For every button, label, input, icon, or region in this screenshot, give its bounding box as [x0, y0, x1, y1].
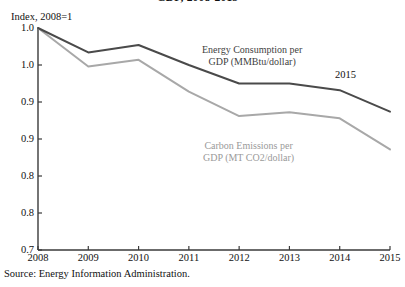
- series-label-energy-line2: GDP (MMBtu/dollar): [202, 56, 302, 68]
- x-axis-tick-label: 2008: [18, 252, 58, 264]
- source-note: Source: Energy Information Administratio…: [4, 267, 190, 280]
- series-label-carbon-line1: Carbon Emissions per: [203, 140, 294, 152]
- y-axis-tick-label: 1.0: [4, 60, 34, 70]
- x-axis-tick-label: 2009: [68, 252, 108, 264]
- y-axis-tick-labels: 1.01.00.90.90.80.80.7: [0, 28, 34, 250]
- y-axis-tick-label: 1.0: [4, 23, 34, 33]
- y-axis-tick-label: 0.9: [4, 134, 34, 144]
- x-axis-tick-label: 2013: [269, 252, 309, 264]
- series-label-carbon-emissions: Carbon Emissions per GDP (MT CO2/dollar): [203, 140, 294, 163]
- y-axis-tick-label: 0.8: [4, 208, 34, 218]
- chart-title: GDP, 2008-2015: [0, 0, 395, 3]
- x-axis-tick-label: 2010: [119, 252, 159, 264]
- x-axis-tick-label: 2015: [370, 252, 405, 264]
- x-axis-tick-label: 2012: [219, 252, 259, 264]
- y-axis-tick-label: 0.8: [4, 171, 34, 181]
- series-label-energy-consumption: Energy Consumption per GDP (MMBtu/dollar…: [202, 44, 302, 67]
- x-axis-tick-label: 2014: [320, 252, 360, 264]
- series-label-carbon-line2: GDP (MT CO2/dollar): [203, 152, 294, 164]
- y-axis-tick-label: 0.9: [4, 97, 34, 107]
- x-axis-tick-labels: 20082009201020112012201320142015: [38, 252, 390, 266]
- y-axis-caption: Index, 2008=1: [11, 11, 72, 22]
- x-axis-tick-label: 2011: [169, 252, 209, 264]
- series-label-energy-line1: Energy Consumption per: [202, 44, 302, 56]
- end-year-annotation: 2015: [335, 69, 356, 80]
